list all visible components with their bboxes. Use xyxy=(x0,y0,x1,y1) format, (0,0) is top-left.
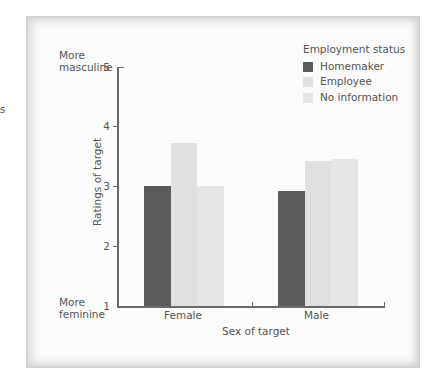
y-tick-label-5: 5 xyxy=(98,61,110,73)
y-annotation-top-line1: More xyxy=(59,49,113,61)
bar-female-no-information xyxy=(197,186,224,306)
x-tick-end xyxy=(384,302,385,307)
bar-female-employee xyxy=(171,143,198,306)
stray-text-fragment: s xyxy=(0,104,5,115)
y-tick-label-2: 2 xyxy=(98,240,110,252)
x-axis-label: Sex of target xyxy=(222,325,290,337)
x-category-male: Male xyxy=(304,309,329,321)
x-tick-mid xyxy=(252,302,253,307)
y-axis-line xyxy=(117,67,119,307)
x-category-female: Female xyxy=(164,309,202,321)
y-tick-label-4: 4 xyxy=(98,120,110,132)
legend-label-homemaker: Homemaker xyxy=(320,60,384,72)
legend-title: Employment status xyxy=(303,43,405,55)
y-tick-label-1: 1 xyxy=(98,300,110,312)
legend-label-employee: Employee xyxy=(320,75,372,87)
legend-swatch-no-information xyxy=(303,93,313,103)
x-axis-line xyxy=(117,306,385,308)
legend-swatch-employee xyxy=(303,77,313,87)
bar-male-homemaker xyxy=(278,191,305,306)
bar-male-employee xyxy=(305,161,332,306)
bar-male-no-information xyxy=(331,159,358,306)
legend-label-no-information: No information xyxy=(320,91,398,103)
legend-swatch-homemaker xyxy=(303,62,313,72)
bar-female-homemaker xyxy=(144,186,171,306)
y-tick-label-3: 3 xyxy=(98,180,110,192)
